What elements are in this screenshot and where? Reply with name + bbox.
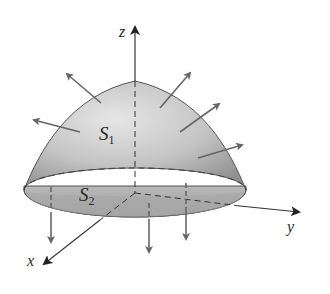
- paraboloid-diagram: z y x S1 S2: [0, 0, 330, 294]
- y-axis-label: y: [285, 218, 295, 236]
- normal-arrow-icon: [67, 74, 101, 103]
- y-axis: [240, 206, 299, 212]
- z-axis-label: z: [118, 23, 126, 40]
- x-axis-label: x: [26, 252, 34, 269]
- x-axis: [44, 220, 100, 264]
